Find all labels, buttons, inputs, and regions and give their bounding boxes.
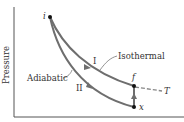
point-x-label: x — [139, 102, 144, 112]
point-f — [132, 84, 136, 88]
path-ii-label: II — [76, 83, 83, 93]
pv-diagram: Pressure i f x T Isothermal Adiabatic I … — [0, 0, 184, 122]
point-f-label: f — [131, 72, 137, 82]
isotherm-dashed — [135, 87, 162, 91]
isothermal-leader — [100, 56, 117, 70]
arrow-up-icon — [131, 93, 137, 99]
point-x — [132, 105, 136, 109]
adiabatic-curve — [50, 17, 134, 107]
isothermal-label: Isothermal — [118, 51, 165, 61]
point-i — [48, 15, 52, 19]
isotherm-t-label: T — [164, 86, 171, 96]
adiabatic-label: Adiabatic — [26, 73, 68, 83]
path-i-label: I — [93, 56, 96, 66]
y-axis-label: Pressure — [1, 46, 11, 84]
point-i-label: i — [43, 11, 46, 21]
